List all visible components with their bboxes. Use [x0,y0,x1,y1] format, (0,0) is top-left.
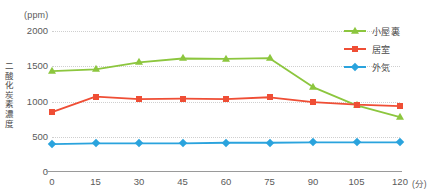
x-tick-label: 120 [392,176,408,187]
data-point-marker [180,96,186,102]
x-tick-label: 75 [264,176,275,187]
data-point-marker [49,109,55,115]
x-tick-label: 30 [134,176,145,187]
legend-item-3: 外気 [344,58,435,76]
legend-swatch-icon [344,26,366,36]
data-point-marker [309,83,317,90]
legend-swatch-icon [344,44,366,54]
data-point-marker [310,99,316,105]
x-tick-label: 45 [177,176,188,187]
x-axis-unit-caption: (分) [412,177,427,189]
legend-item-1: 小屋裏 [344,22,435,40]
x-tick-label: 90 [308,176,319,187]
legend-swatch-icon [344,62,366,72]
legend-item-2: 居室 [344,40,435,58]
y-tick-label: 2000 [10,25,48,36]
x-tick-label: 105 [349,176,365,187]
data-point-marker [267,94,273,100]
x-tick-label: 15 [90,176,101,187]
y-tick-label: 1000 [10,96,48,107]
legend-label: 外気 [372,61,391,74]
co2-line-chart: (ppm) 二酸化炭素濃度 0500100015002000 小屋裏居室外気 0… [0,0,435,194]
legend-label: 居室 [372,43,391,56]
data-point-marker [179,54,187,61]
data-point-marker [93,94,99,100]
x-tick-label: 0 [49,176,54,187]
y-tick-label: 1500 [10,60,48,71]
y-tick-label: 0 [10,166,48,177]
y-tick-label: 500 [10,131,48,142]
data-point-marker [354,102,360,108]
data-point-marker [222,55,230,62]
data-point-marker [136,96,142,102]
data-point-marker [397,103,403,109]
x-tick-label: 60 [221,176,232,187]
data-point-marker [48,67,56,74]
data-point-marker [92,65,100,72]
data-point-marker [223,96,229,102]
data-point-marker [266,54,274,61]
legend-label: 小屋裏 [372,25,400,38]
chart-legend: 小屋裏居室外気 [344,22,435,76]
data-point-marker [135,58,143,65]
data-point-marker [396,113,404,120]
